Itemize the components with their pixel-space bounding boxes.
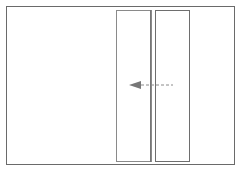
- left-arrow-icon: [0, 0, 243, 169]
